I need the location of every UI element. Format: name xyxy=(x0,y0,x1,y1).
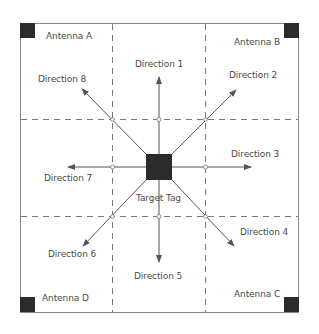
antenna-a-label: Antenna A xyxy=(46,32,92,41)
direction-7-label: Direction 7 xyxy=(44,174,92,183)
antenna-c-label: Antenna C xyxy=(234,290,280,299)
target-tag-label: Target Tag xyxy=(136,194,181,203)
antenna-a-square xyxy=(20,23,35,38)
direction-2-label: Direction 2 xyxy=(229,71,277,80)
antenna-d-square xyxy=(20,297,35,312)
antenna-d-label: Antenna D xyxy=(42,294,89,303)
direction-4-label: Direction 4 xyxy=(240,228,288,237)
arrow-direction-6 xyxy=(83,180,146,246)
antenna-b-label: Antenna B xyxy=(234,38,280,47)
arrow-direction-2 xyxy=(172,90,236,154)
direction-8-label: Direction 8 xyxy=(38,75,86,84)
arrow-direction-4 xyxy=(172,180,234,246)
direction-5-label: Direction 5 xyxy=(134,272,182,281)
antenna-c-square xyxy=(284,297,299,312)
direction-6-label: Direction 6 xyxy=(48,250,96,259)
direction-1-label: Direction 1 xyxy=(135,60,183,69)
arrow-direction-8 xyxy=(82,89,146,154)
direction-3-label: Direction 3 xyxy=(231,150,279,159)
antenna-b-square xyxy=(284,23,299,38)
diagram-canvas xyxy=(0,0,319,334)
target-tag-square xyxy=(146,154,172,180)
